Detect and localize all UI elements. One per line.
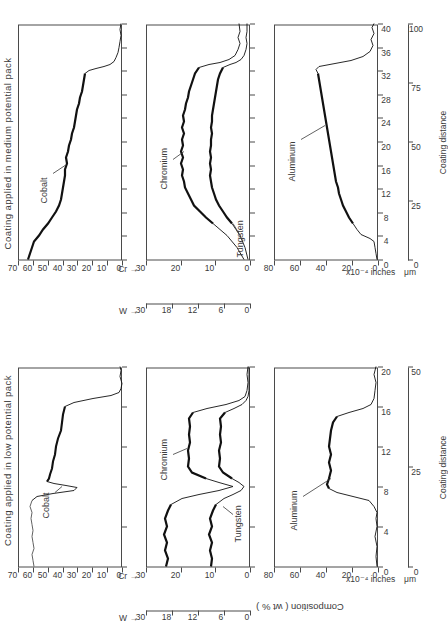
- x-unit-microns: μm: [382, 573, 416, 583]
- y-tick-mark-cr: [146, 567, 147, 572]
- panel-aluminum-low: Aluminum: [274, 367, 378, 567]
- x-unit-inches: x10⁻⁴ inches: [346, 573, 386, 583]
- x-tick-label-inches: 4: [377, 527, 395, 536]
- x-tick-label-microns: 25: [407, 467, 425, 476]
- x-tick-label-inches: 20: [377, 367, 395, 376]
- panel-cobalt-medium: Cobalt: [18, 24, 122, 260]
- y-tick-mark-cr: [181, 567, 182, 572]
- x-tick-mark: [122, 141, 127, 142]
- y-axis-name-w: W →: [112, 612, 138, 622]
- x-tick-mark: [250, 446, 255, 447]
- panel-crw-medium: Chromium Tungsten: [146, 24, 250, 260]
- x-tick-mark: [250, 212, 255, 213]
- x-tick-mark: [122, 117, 127, 118]
- x-tick-label-microns: 75: [407, 83, 425, 92]
- y-tick-label-cr: 20: [154, 571, 180, 580]
- x-tick-mark: [250, 235, 255, 236]
- y-tick-mark-cr: [215, 567, 216, 572]
- group-title-medium: Coating applied in medium potential pack: [2, 0, 13, 306]
- x-tick-label-inches: 40: [377, 24, 395, 33]
- x-tick-label-inches: 36: [377, 48, 395, 57]
- x-unit-inches: x10⁻⁴ inches: [346, 266, 386, 276]
- x-tick-label-inches: 16: [377, 407, 395, 416]
- y-tick-label-w: 18: [145, 306, 171, 315]
- trace-aluminum-low: [275, 366, 379, 566]
- x-tick-label-inches: 28: [377, 95, 395, 104]
- x-tick-mark: [122, 188, 127, 189]
- x-tick-mark: [122, 446, 127, 447]
- trace-cobalt-low: [19, 366, 123, 566]
- series-label-cobalt-low: Cobalt: [41, 492, 51, 518]
- x-tick-mark: [122, 259, 127, 260]
- x-tick-label-microns: 50: [407, 142, 425, 151]
- x-tick-mark: [122, 165, 127, 166]
- group-medium-potential: Coating applied in medium potential pack…: [0, 0, 406, 306]
- series-label-tungsten-medium: Tungsten: [235, 220, 245, 257]
- y-axis-name-cr: Cr →: [112, 570, 138, 580]
- y-tick-label-cr: 0: [223, 264, 249, 273]
- y-tick-label-cr: 10: [189, 264, 215, 273]
- group-low-potential: Coating applied in low potential pack Co…: [0, 307, 406, 613]
- y-tick-label-w: 0: [223, 613, 249, 622]
- x-tick-label-inches: 16: [377, 166, 395, 175]
- x-tick-mark: [122, 566, 127, 567]
- x-tick-mark: [250, 117, 255, 118]
- x-tick-label-microns: 50: [407, 367, 425, 376]
- x-tick-mark: [122, 23, 127, 24]
- y-tick-label: 40: [299, 571, 325, 580]
- x-tick-mark: [122, 94, 127, 95]
- y-tick-label-cr: 20: [154, 264, 180, 273]
- x-tick-mark: [250, 141, 255, 142]
- y-axis-name-cr: Cr →: [112, 263, 138, 273]
- x-tick-mark: [250, 366, 255, 367]
- x-axis-title: Coating distance: [438, 97, 448, 187]
- x-tick-label-inches: 8: [377, 487, 395, 496]
- y-tick-label: 40: [299, 264, 325, 273]
- series-label-aluminum-low: Aluminum: [289, 490, 299, 530]
- x-tick-mark: [250, 165, 255, 166]
- x-unit-microns: μm: [382, 266, 416, 276]
- panel-aluminum-medium: Aluminum: [274, 24, 378, 260]
- series-label-chromium-medium: Chromium: [159, 147, 169, 189]
- y-tick-label-w: 0: [223, 306, 249, 315]
- y-tick-label: 80: [247, 264, 273, 273]
- series-label-cobalt-medium: Cobalt: [39, 177, 49, 203]
- y-axis-name-w: W →: [112, 305, 138, 315]
- x-tick-mark: [122, 47, 127, 48]
- x-tick-mark: [122, 486, 127, 487]
- x-tick-label-inches: 24: [377, 118, 395, 127]
- x-tick-label-inches: 20: [377, 142, 395, 151]
- series-label-aluminum-medium: Aluminum: [287, 141, 297, 181]
- x-tick-mark: [122, 70, 127, 71]
- x-tick-label-inches: 12: [377, 447, 395, 456]
- x-tick-mark: [250, 188, 255, 189]
- x-tick-mark: [122, 526, 127, 527]
- x-tick-mark: [250, 486, 255, 487]
- series-label-tungsten-low: Tungsten: [233, 505, 243, 542]
- x-tick-label-microns: 25: [407, 201, 425, 210]
- x-tick-mark: [250, 94, 255, 95]
- y-tick-label-w: 6: [197, 613, 223, 622]
- group-title-low: Coating applied in low potential pack: [2, 307, 13, 613]
- x-tick-mark: [250, 406, 255, 407]
- x-tick-mark: [122, 212, 127, 213]
- w-tick-mark: [250, 303, 251, 308]
- x-tick-mark: [122, 235, 127, 236]
- x-tick-mark: [122, 406, 127, 407]
- y-tick-label-cr: 0: [223, 571, 249, 580]
- panel-crw-low: Chromium Tungsten: [146, 367, 250, 567]
- x-tick-mark: [250, 70, 255, 71]
- y-tick-mark-cr: [181, 260, 182, 265]
- y-tick-mark-cr: [215, 260, 216, 265]
- x-tick-mark: [122, 366, 127, 367]
- y-axis-title: Composition ( wt % ): [256, 602, 344, 613]
- x-tick-label-microns: 100: [407, 24, 425, 33]
- x-tick-mark: [250, 566, 255, 567]
- x-tick-label-inches: 12: [377, 189, 395, 198]
- y-tick-label-w: 12: [171, 306, 197, 315]
- x-tick-label-inches: 4: [377, 236, 395, 245]
- x-tick-mark: [250, 23, 255, 24]
- y-tick-label: 60: [273, 571, 299, 580]
